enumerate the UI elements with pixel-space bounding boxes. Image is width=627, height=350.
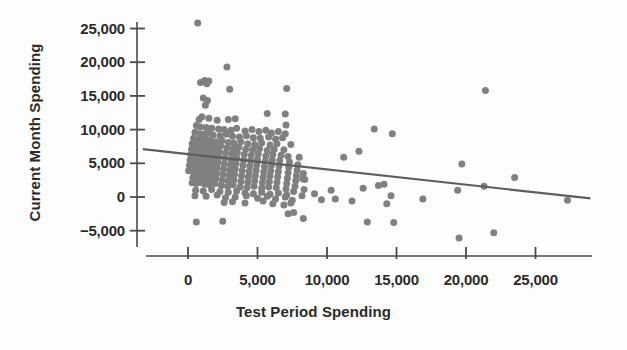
data-point bbox=[251, 183, 258, 190]
x-axis-title: Test Period Spending bbox=[0, 303, 627, 320]
data-point bbox=[360, 185, 367, 192]
data-point bbox=[265, 134, 272, 141]
data-point bbox=[226, 86, 233, 93]
data-point bbox=[260, 198, 267, 205]
data-point bbox=[390, 219, 397, 226]
data-point bbox=[232, 115, 239, 122]
data-point bbox=[279, 134, 286, 141]
data-point bbox=[332, 196, 339, 203]
data-point bbox=[194, 20, 201, 27]
data-point bbox=[290, 209, 297, 216]
data-point bbox=[282, 194, 289, 201]
y-axis-tick-label: 5,000 bbox=[88, 155, 125, 170]
data-point bbox=[241, 200, 248, 207]
data-point bbox=[371, 125, 378, 132]
data-point bbox=[454, 187, 461, 194]
data-point bbox=[197, 79, 204, 86]
data-point bbox=[380, 181, 387, 188]
data-point bbox=[229, 133, 236, 140]
data-point bbox=[223, 131, 230, 138]
data-point bbox=[264, 110, 271, 117]
data-point bbox=[280, 202, 287, 209]
data-point bbox=[300, 215, 307, 222]
data-point bbox=[214, 117, 221, 124]
data-point bbox=[283, 121, 290, 128]
data-point bbox=[275, 189, 282, 196]
data-point bbox=[387, 192, 394, 199]
y-axis-tick-label: 15,000 bbox=[80, 88, 125, 103]
data-point bbox=[218, 182, 225, 189]
data-point bbox=[250, 134, 257, 141]
data-point bbox=[511, 174, 518, 181]
data-point bbox=[229, 198, 236, 205]
data-point bbox=[225, 116, 232, 123]
data-point bbox=[328, 187, 335, 194]
scatter-plot-figure: Current Month Spending −5,00005,00010,00… bbox=[0, 0, 627, 350]
data-point bbox=[193, 218, 200, 225]
data-point bbox=[191, 192, 198, 199]
data-point bbox=[196, 116, 203, 123]
x-axis-tick-label: 25,000 bbox=[486, 272, 586, 287]
data-point bbox=[301, 176, 308, 183]
data-point bbox=[355, 148, 362, 155]
data-point bbox=[419, 196, 426, 203]
data-point bbox=[340, 154, 347, 161]
data-point bbox=[265, 183, 272, 190]
data-point bbox=[214, 191, 221, 198]
data-point bbox=[287, 141, 294, 148]
data-point bbox=[221, 199, 228, 206]
data-point bbox=[223, 63, 230, 70]
data-point bbox=[202, 102, 209, 109]
data-points-group bbox=[185, 20, 571, 242]
y-axis-tick-label: 25,000 bbox=[80, 21, 125, 36]
y-axis-tick-label: −5,000 bbox=[80, 223, 125, 238]
data-point bbox=[482, 87, 489, 94]
data-point bbox=[248, 126, 255, 133]
data-point bbox=[456, 235, 463, 242]
data-point bbox=[311, 190, 318, 197]
data-point bbox=[203, 80, 210, 87]
data-point bbox=[383, 200, 390, 207]
data-point bbox=[230, 181, 237, 188]
data-point bbox=[243, 132, 250, 139]
data-point bbox=[210, 131, 217, 138]
data-point bbox=[301, 186, 308, 193]
data-point bbox=[296, 154, 303, 161]
data-point bbox=[269, 200, 276, 207]
data-point bbox=[243, 192, 250, 199]
data-point bbox=[283, 185, 290, 192]
data-point bbox=[233, 187, 240, 194]
data-point bbox=[275, 128, 282, 135]
data-point bbox=[318, 196, 325, 203]
data-point bbox=[458, 160, 465, 167]
data-point bbox=[255, 128, 262, 135]
data-point bbox=[490, 229, 497, 236]
data-point bbox=[287, 200, 294, 207]
y-axis-tick-label: 10,000 bbox=[80, 122, 125, 137]
data-point bbox=[205, 115, 212, 122]
data-point bbox=[282, 111, 289, 118]
data-point bbox=[233, 125, 240, 132]
data-point bbox=[364, 218, 371, 225]
data-point bbox=[298, 192, 305, 199]
data-point bbox=[203, 193, 210, 200]
data-point bbox=[564, 197, 571, 204]
y-axis-tick-label: 0 bbox=[117, 189, 125, 204]
data-point bbox=[290, 188, 297, 195]
y-axis-tick-label: 20,000 bbox=[80, 54, 125, 69]
data-point bbox=[283, 85, 290, 92]
data-point bbox=[349, 198, 356, 205]
data-point bbox=[389, 130, 396, 137]
data-point bbox=[208, 186, 215, 193]
data-point bbox=[219, 218, 226, 225]
data-point bbox=[212, 180, 219, 187]
